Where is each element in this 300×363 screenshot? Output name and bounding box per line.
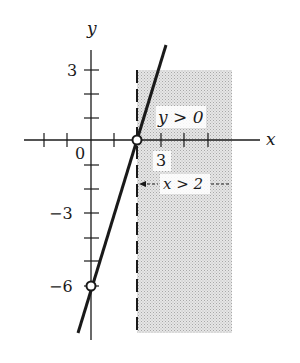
y-tick-label-3: 3 [67,61,77,80]
y-axis-label: y [86,18,97,38]
x-tick-label-3: 3 [156,151,166,170]
y-intercept-point [87,282,96,291]
region-label-y-gt-0: y > 0 [157,107,204,127]
x-intercept-point [133,136,142,145]
x-axis-label: x [266,129,276,149]
y-tick-label-neg6: −6 [49,277,73,296]
origin-label: 0 [75,144,85,163]
y-tick-label-neg3: −3 [49,204,73,223]
graph-figure: y x 3 0 3 −3 −6 y > 0 x > 2 [0,0,300,363]
arrow-label-x-gt-2: x > 2 [163,175,203,193]
